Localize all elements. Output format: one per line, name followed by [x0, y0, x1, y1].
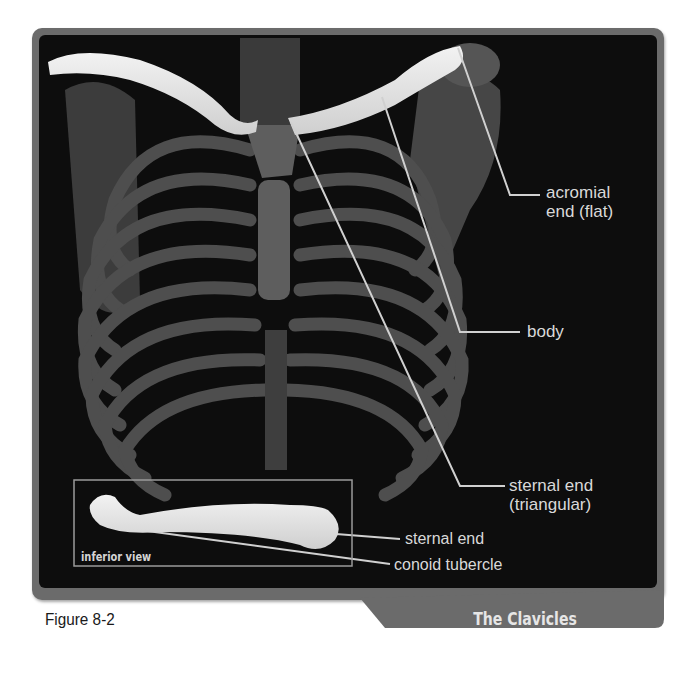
label-text: body: [527, 322, 564, 341]
label-line-2: end (flat): [546, 202, 613, 221]
inset-view-label: inferior view: [81, 550, 151, 564]
label-body: body: [527, 322, 564, 341]
figure-title: The Clavicles: [451, 608, 599, 629]
label-text: conoid tubercle: [394, 556, 503, 573]
label-line-1: sternal end: [509, 476, 593, 495]
label-line-1: acromial: [546, 183, 613, 202]
label-inset-sternal-end: sternal end: [405, 529, 484, 548]
label-inset-conoid-tubercle: conoid tubercle: [394, 555, 503, 574]
label-sternal-end: sternal end (triangular): [509, 476, 593, 514]
label-acromial-end: acromial end (flat): [546, 183, 613, 221]
figure-caption: Figure 8-2: [45, 610, 115, 630]
label-line-2: (triangular): [509, 495, 593, 514]
label-text: sternal end: [405, 530, 484, 547]
